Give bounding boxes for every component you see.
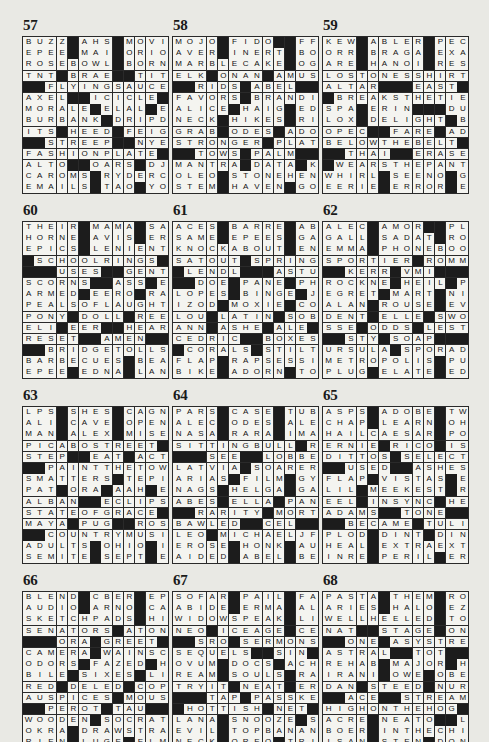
letter-cell: E (34, 300, 45, 311)
block-cell (296, 160, 307, 171)
letter-cell: E (124, 463, 135, 474)
letter-cell: H (34, 222, 45, 233)
letter-cell: J (157, 160, 168, 171)
letter-cell: E (146, 508, 157, 519)
letter-cell: G (157, 127, 168, 138)
letter-cell: E (218, 452, 229, 463)
letter-cell: A (23, 497, 34, 508)
letter-cell: C (184, 345, 195, 356)
letter-cell: M (424, 592, 435, 603)
letter-cell: R (57, 659, 68, 670)
letter-cell: S (207, 222, 218, 233)
block-cell (68, 312, 79, 323)
block-cell (135, 182, 146, 193)
letter-cell: I (184, 614, 195, 625)
block-cell (34, 345, 45, 356)
letter-cell: A (240, 407, 251, 418)
letter-cell: E (79, 682, 90, 693)
block-cell (146, 334, 157, 345)
letter-cell: E (23, 244, 34, 255)
letter-cell: A (184, 407, 195, 418)
letter-cell: P (240, 233, 251, 244)
letter-cell: I (251, 312, 262, 323)
letter-cell: T (229, 256, 240, 267)
letter-cell: L (251, 485, 262, 496)
letter-cell: D (240, 367, 251, 378)
letter-cell: S (263, 127, 274, 138)
letter-cell: L (368, 171, 379, 182)
letter-cell: S (68, 407, 79, 418)
letter-cell: B (45, 345, 56, 356)
letter-cell: D (379, 463, 390, 474)
letter-cell: D (379, 323, 390, 334)
letter-cell: N (57, 592, 68, 603)
letter-cell: E (79, 552, 90, 563)
letter-cell: O (184, 289, 195, 300)
block-cell (157, 508, 168, 519)
letter-cell: C (207, 418, 218, 429)
letter-cell: T (135, 71, 146, 82)
letter-cell: L (90, 244, 101, 255)
letter-cell: P (424, 160, 435, 171)
letter-cell: D (34, 541, 45, 552)
letter-cell: L (101, 59, 112, 70)
letter-cell: S (218, 289, 229, 300)
block-cell (334, 267, 345, 278)
letter-cell: L (173, 289, 184, 300)
letter-cell: L (379, 418, 390, 429)
letter-cell: M (90, 222, 101, 233)
letter-cell: D (146, 160, 157, 171)
letter-cell: B (307, 407, 318, 418)
letter-cell: T (413, 530, 424, 541)
letter-cell: N (307, 726, 318, 737)
letter-cell: M (34, 182, 45, 193)
letter-cell: H (413, 93, 424, 104)
letter-cell: A (195, 127, 206, 138)
letter-cell: P (173, 407, 184, 418)
letter-cell: E (184, 737, 195, 742)
letter-cell: T (146, 637, 157, 648)
letter-cell: I (446, 530, 457, 541)
letter-cell: R (263, 48, 274, 59)
letter-cell: S (357, 463, 368, 474)
letter-cell: O (124, 289, 135, 300)
letter-cell: G (413, 626, 424, 637)
letter-cell: A (274, 463, 285, 474)
puzzle-number: 63 (23, 388, 170, 403)
letter-cell: T (113, 345, 124, 356)
letter-cell: H (229, 485, 240, 496)
letter-cell: E (157, 82, 168, 93)
letter-cell: R (446, 637, 457, 648)
letter-cell: E (390, 71, 401, 82)
letter-cell: R (334, 670, 345, 681)
letter-cell: H (57, 256, 68, 267)
letter-cell: T (285, 737, 296, 742)
letter-cell: Y (113, 171, 124, 182)
letter-cell: A (90, 48, 101, 59)
letter-cell: E (334, 356, 345, 367)
block-cell (23, 138, 34, 149)
letter-cell: F (307, 37, 318, 48)
block-cell (124, 452, 135, 463)
block-cell (457, 138, 468, 149)
block-cell (79, 592, 90, 603)
letter-cell: O (263, 737, 274, 742)
block-cell (435, 300, 446, 311)
block-cell (135, 614, 146, 625)
letter-cell: E (334, 312, 345, 323)
letter-cell: O (334, 115, 345, 126)
letter-cell: O (45, 715, 56, 726)
letter-cell: E (184, 115, 195, 126)
letter-cell: E (357, 715, 368, 726)
letter-cell: P (45, 704, 56, 715)
letter-cell: A (57, 497, 68, 508)
block-cell (285, 115, 296, 126)
letter-cell: A (173, 104, 184, 115)
letter-cell: S (218, 474, 229, 485)
letter-cell: S (307, 637, 318, 648)
block-cell (173, 637, 184, 648)
letter-cell: E (90, 127, 101, 138)
block-cell (240, 452, 251, 463)
letter-cell: D (240, 127, 251, 138)
letter-cell: B (263, 82, 274, 93)
